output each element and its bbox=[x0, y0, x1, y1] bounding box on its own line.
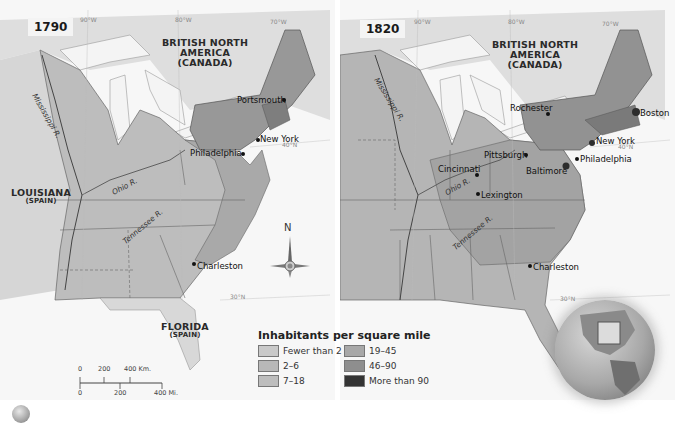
legend-item: 7–18 bbox=[258, 375, 344, 387]
legend-item: 2–6 bbox=[258, 360, 344, 372]
region-label-canada: BRITISH NORTH AMERICA (CANADA) bbox=[140, 38, 270, 68]
region-label-florida: FLORIDA (SPAIN) bbox=[160, 322, 210, 339]
compass-icon bbox=[268, 222, 312, 280]
legend-swatch bbox=[258, 360, 279, 372]
city-label-boston: Boston bbox=[640, 108, 669, 118]
scale-mi-400: 400 Mi. bbox=[154, 389, 178, 397]
legend-title: Inhabitants per square mile bbox=[258, 329, 458, 342]
legend-swatch bbox=[344, 360, 365, 372]
city-label-philadelphia: Philadelphia bbox=[580, 154, 632, 164]
legend-swatch bbox=[258, 375, 279, 387]
longitude-label: 80°W bbox=[175, 16, 192, 23]
city-marker bbox=[575, 157, 579, 161]
legend-swatch bbox=[344, 345, 365, 357]
city-label-charleston: Charleston bbox=[197, 261, 243, 271]
scale-km-400: 400 Km. bbox=[124, 365, 151, 373]
region-label-louisiana: LOUISIANA (SPAIN) bbox=[6, 188, 76, 205]
globe-icon bbox=[12, 405, 30, 423]
city-label-new-york: New York bbox=[596, 136, 635, 146]
city-label-cincinnati: Cincinnati bbox=[438, 164, 480, 174]
legend-item: Fewer than 2 bbox=[258, 345, 344, 357]
longitude-label: 90°W bbox=[414, 18, 431, 25]
city-marker bbox=[192, 262, 196, 266]
scale-bar: 0 200 400 Km. 0 200 400 Mi. bbox=[78, 365, 178, 399]
legend-item: 46–90 bbox=[344, 360, 454, 372]
compass-rose: N bbox=[268, 222, 312, 280]
longitude-label: 90°W bbox=[80, 16, 97, 23]
legend-item: More than 90 bbox=[344, 375, 454, 387]
longitude-label: 70°W bbox=[602, 20, 619, 27]
latitude-label: 30°N bbox=[560, 295, 575, 302]
scale-mi-200: 200 bbox=[114, 389, 126, 397]
city-label-charleston: Charleston bbox=[533, 262, 579, 272]
city-label-lexington: Lexington bbox=[481, 190, 523, 200]
city-marker bbox=[476, 192, 480, 196]
map-year-label: 1790 bbox=[28, 18, 73, 36]
city-label-baltimore: Baltimore bbox=[526, 166, 567, 176]
city-label-rochester: Rochester bbox=[510, 103, 553, 113]
scale-km-0: 0 bbox=[78, 365, 82, 373]
city-marker bbox=[528, 264, 532, 268]
latitude-label: 30°N bbox=[230, 293, 245, 300]
map-year-label: 1820 bbox=[360, 20, 405, 38]
city-label-philadelphia: Philadelphia bbox=[190, 148, 242, 158]
longitude-label: 70°W bbox=[270, 18, 287, 25]
locator-globe bbox=[555, 300, 655, 400]
scale-km-200: 200 bbox=[98, 365, 110, 373]
scale-mi-0: 0 bbox=[78, 389, 82, 397]
legend-swatch bbox=[258, 345, 279, 357]
region-label-canada: BRITISH NORTH AMERICA (CANADA) bbox=[470, 40, 600, 70]
globe-continents-icon bbox=[555, 300, 655, 400]
longitude-label: 80°W bbox=[508, 18, 525, 25]
city-label-portsmouth: Portsmouth bbox=[237, 95, 286, 105]
city-label-new-york: New York bbox=[260, 134, 299, 144]
legend-swatch bbox=[344, 375, 365, 387]
legend: Inhabitants per square mile Fewer than 2… bbox=[258, 329, 458, 387]
city-label-pittsburgh: Pittsburgh bbox=[484, 150, 527, 160]
legend-item: 19–45 bbox=[344, 345, 454, 357]
